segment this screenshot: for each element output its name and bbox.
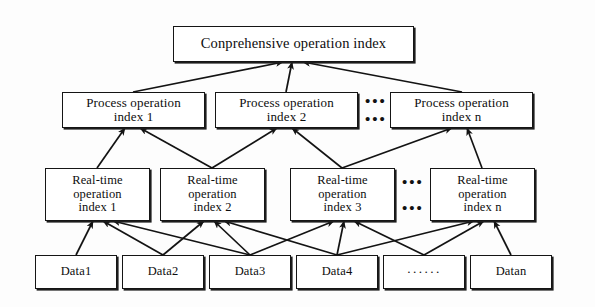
node-label-line2: index n <box>411 110 512 124</box>
node-label-line3: index 3 <box>314 201 371 215</box>
node-label-line1: Real-time <box>454 174 511 188</box>
node-label-line2: operation <box>314 188 371 202</box>
node-label-line3: index 2 <box>184 201 241 215</box>
node-realtime-operation-index-n[interactable]: Real-time operation index n <box>430 168 535 221</box>
ellipsis-bottom: ••• <box>365 113 387 125</box>
node-realtime-operation-index-1[interactable]: Real-time operation index 1 <box>45 168 150 221</box>
node-label-line3: index 1 <box>69 201 126 215</box>
node-data-ellipsis[interactable]: ······ <box>383 255 465 289</box>
node-label-line3: index n <box>454 201 511 215</box>
node-label-line2: operation <box>184 188 241 202</box>
node-label-line2: operation <box>69 188 126 202</box>
node-label: Data2 <box>145 265 182 279</box>
node-label-line1: Process operation <box>411 96 512 110</box>
ellipsis-top: ••• <box>365 95 387 107</box>
node-label: ······ <box>404 265 444 279</box>
node-label-line1: Real-time <box>314 174 371 188</box>
node-comprehensive-operation-index[interactable]: Conprehensive operation index <box>173 26 414 62</box>
node-process-operation-index-n[interactable]: Process operation index n <box>390 92 533 128</box>
node-realtime-operation-index-3[interactable]: Real-time operation index 3 <box>290 168 395 221</box>
node-label-line1: Real-time <box>69 174 126 188</box>
node-data-2[interactable]: Data2 <box>122 255 204 289</box>
node-data-4[interactable]: Data4 <box>296 255 378 289</box>
ellipsis-bottom: ••• <box>402 202 424 214</box>
node-label: Data3 <box>232 265 269 279</box>
node-label-line2: index 2 <box>236 110 337 124</box>
ellipsis-process-row: ••• ••• <box>363 95 389 125</box>
node-data-3[interactable]: Data3 <box>209 255 291 289</box>
ellipsis-top: ••• <box>402 176 424 188</box>
node-process-operation-index-1[interactable]: Process operation index 1 <box>62 92 205 128</box>
node-label-line2: index 1 <box>83 110 184 124</box>
node-realtime-operation-index-2[interactable]: Real-time operation index 2 <box>160 168 265 221</box>
node-data-1[interactable]: Data1 <box>35 255 117 289</box>
node-label-line1: Process operation <box>236 96 337 110</box>
node-label-line2: operation <box>454 188 511 202</box>
node-data-n[interactable]: Datan <box>470 255 552 289</box>
node-process-operation-index-2[interactable]: Process operation index 2 <box>215 92 358 128</box>
node-label-line1: Real-time <box>184 174 241 188</box>
node-label: Datan <box>493 265 530 279</box>
node-label: Conprehensive operation index <box>198 36 390 52</box>
ellipsis-realtime-row: ••• ••• <box>400 176 426 214</box>
hierarchy-diagram: Conprehensive operation index Process op… <box>0 0 595 307</box>
node-label: Data4 <box>319 265 356 279</box>
node-label: Data1 <box>58 265 95 279</box>
node-label-line1: Process operation <box>83 96 184 110</box>
